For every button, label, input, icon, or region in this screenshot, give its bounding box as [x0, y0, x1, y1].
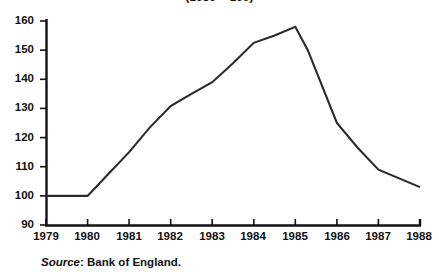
x-tick-label-1983: 1983	[191, 231, 233, 243]
source-label: Source	[41, 256, 80, 268]
x-tick-label-1982: 1982	[149, 231, 191, 243]
y-tick-label-140: 140	[4, 73, 34, 85]
y-tick-label-90: 90	[4, 219, 34, 231]
x-tick-label-1980: 1980	[66, 231, 108, 243]
y-tick-label-100: 100	[4, 190, 34, 202]
x-tick-label-1988: 1988	[398, 231, 439, 243]
x-tick-label-1979: 1979	[25, 231, 67, 243]
y-tick-label-150: 150	[4, 44, 34, 56]
y-tick-label-160: 160	[4, 15, 34, 27]
data-series-line	[46, 27, 420, 196]
x-tick-label-1985: 1985	[274, 231, 316, 243]
source-note: Source: Bank of England.	[41, 256, 181, 268]
source-text: Bank of England.	[87, 256, 181, 268]
x-tick-label-1981: 1981	[108, 231, 150, 243]
y-tick-label-130: 130	[4, 102, 34, 114]
x-tick-label-1986: 1986	[316, 231, 358, 243]
y-tick-label-120: 120	[4, 132, 34, 144]
chart-figure: (1980 = 100) 90 100 110 120 130 1	[0, 0, 439, 277]
y-tick-label-110: 110	[4, 161, 34, 173]
source-separator: :	[80, 256, 84, 268]
x-tick-label-1984: 1984	[232, 231, 274, 243]
x-tick-label-1987: 1987	[357, 231, 399, 243]
